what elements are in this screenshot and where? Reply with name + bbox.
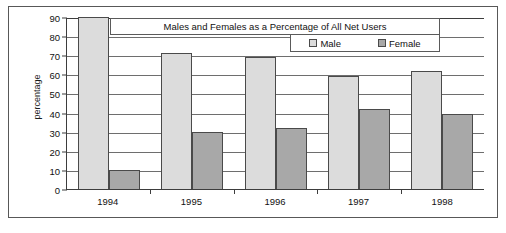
bar-male-1994	[78, 17, 109, 189]
x-tick-label: 1997	[317, 196, 401, 207]
x-tick-label: 1995	[150, 196, 234, 207]
x-tick-mark	[317, 189, 318, 194]
bar-male-1995	[161, 53, 192, 189]
legend-swatch-female-icon	[378, 39, 386, 47]
x-tick-label: 1998	[400, 196, 484, 207]
y-tick-label: 60	[49, 70, 67, 81]
bar-female-1995	[192, 132, 223, 189]
legend-label-female: Female	[389, 38, 421, 49]
x-tick-mark	[401, 189, 402, 194]
bar-female-1998	[442, 114, 473, 189]
x-tick-mark	[150, 189, 151, 194]
chart-legend: Male Female	[290, 35, 440, 52]
y-tick-label: 50	[49, 89, 67, 100]
y-tick-label: 20	[49, 146, 67, 157]
x-tick-mark	[234, 189, 235, 194]
bar-male-1998	[411, 71, 442, 189]
y-tick-label: 90	[49, 13, 67, 24]
bar-group	[67, 18, 150, 189]
legend-item-female: Female	[378, 38, 421, 49]
bar-female-1996	[276, 128, 307, 189]
x-axis-labels: 19941995199619971998	[66, 196, 484, 207]
x-tick-label: 1996	[233, 196, 317, 207]
legend-swatch-male-icon	[309, 39, 317, 47]
y-tick-label: 10	[49, 165, 67, 176]
bar-group	[150, 18, 233, 189]
y-axis-title: percentage	[32, 52, 42, 142]
y-tick-label: 80	[49, 32, 67, 43]
bar-female-1997	[359, 109, 390, 189]
y-tick-label: 0	[55, 185, 67, 196]
bar-male-1996	[245, 57, 276, 189]
x-tick-label: 1994	[66, 196, 150, 207]
bar-male-1997	[328, 76, 359, 189]
y-tick-label: 40	[49, 108, 67, 119]
chart-title: Males and Females as a Percentage of All…	[110, 18, 440, 35]
bar-chart: percentage 0102030405060708090 199419951…	[0, 0, 506, 233]
legend-item-male: Male	[309, 38, 341, 49]
y-tick-label: 70	[49, 51, 67, 62]
legend-label-male: Male	[320, 38, 341, 49]
y-tick-label: 30	[49, 127, 67, 138]
bar-female-1994	[109, 170, 140, 189]
